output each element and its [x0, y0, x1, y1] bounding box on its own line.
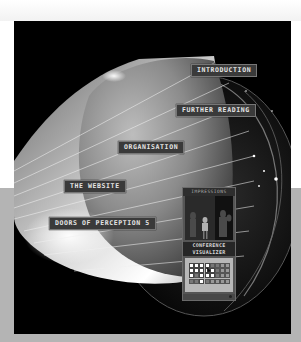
card-title: IMPRESSIONS: [183, 188, 235, 196]
grid-cell[interactable]: [225, 279, 230, 284]
nav-further-reading[interactable]: FURTHER READING: [176, 104, 256, 117]
nav-the-website[interactable]: THE WEBSITE: [64, 180, 126, 193]
session-grid-area: [185, 258, 233, 292]
card-footer: [183, 294, 235, 300]
nav-introduction[interactable]: INTRODUCTION: [191, 64, 257, 77]
top-margin: [0, 0, 301, 21]
visual-panel: INTRODUCTION FURTHER READING ORGANISATIO…: [14, 21, 291, 334]
card-heading: CONFERENCE VISUALIZER: [183, 242, 235, 256]
card-heading-line2: VISUALIZER: [183, 249, 235, 256]
card-close-icon[interactable]: [229, 295, 232, 298]
session-grid: [189, 263, 229, 283]
conference-visualizer-card[interactable]: IMPRESSIONS CONFERENCE VISUALIZER: [182, 187, 236, 301]
nav-organisation[interactable]: ORGANISATION: [118, 141, 184, 154]
conference-photo: [185, 196, 233, 240]
nav-doors-of-perception[interactable]: DOORS OF PERCEPTION 5: [49, 217, 156, 230]
